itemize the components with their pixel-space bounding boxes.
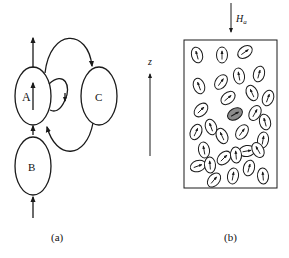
particle-highlighted	[225, 105, 244, 123]
particle-group	[188, 43, 276, 190]
particle	[235, 43, 254, 61]
z-axis: z	[147, 56, 152, 156]
particle	[252, 65, 267, 83]
particle	[260, 89, 276, 108]
particle	[218, 89, 237, 108]
particle	[188, 122, 205, 141]
particle	[191, 77, 207, 96]
z-axis-label: z	[147, 56, 152, 67]
arc-a-to-c	[45, 38, 92, 73]
particle	[232, 67, 246, 85]
particle	[212, 72, 230, 91]
particle	[191, 100, 210, 119]
particle	[242, 159, 257, 177]
particle	[197, 141, 211, 159]
particle	[217, 47, 228, 63]
node-a-label: A	[22, 90, 31, 104]
node-c-label: C	[95, 91, 102, 103]
particle	[226, 167, 240, 185]
particle	[244, 83, 261, 102]
panel-a: A B C (a)	[15, 38, 117, 244]
particle	[204, 157, 216, 174]
particle	[257, 168, 269, 185]
particle	[233, 122, 251, 141]
field-label: Ha	[235, 13, 247, 26]
panel-a-caption: (a)	[51, 231, 64, 244]
panel-b: Ha (b)	[184, 3, 277, 244]
panel-b-caption: (b)	[224, 231, 237, 244]
particle	[190, 46, 205, 64]
particle	[205, 170, 224, 189]
arc-c-to-a	[47, 123, 93, 151]
node-b-label: B	[28, 161, 35, 173]
diagram-canvas: A B C (a) z Ha (b)	[0, 0, 289, 258]
